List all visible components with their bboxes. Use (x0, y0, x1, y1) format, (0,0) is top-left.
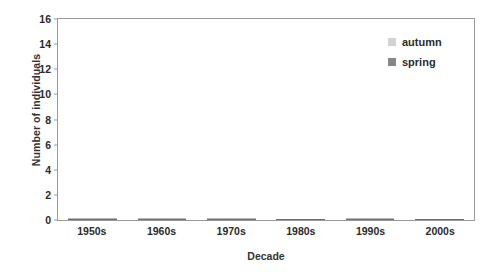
legend-swatch-icon (388, 38, 396, 46)
stacked-bar[interactable] (138, 218, 187, 220)
stacked-bar[interactable] (207, 218, 256, 220)
bar-segment-spring[interactable] (346, 219, 395, 220)
legend-item-autumn[interactable]: autumn (388, 36, 442, 48)
bar-slot (58, 19, 127, 220)
x-tick-label: 1980s (266, 225, 336, 237)
legend: autumnspring (388, 36, 442, 68)
bar-slot (266, 19, 335, 220)
bar-segment-spring[interactable] (276, 219, 325, 220)
chart-figure: Number of individuals 0246810121416 1950… (0, 0, 489, 276)
legend-swatch-icon (388, 58, 396, 66)
legend-label: autumn (402, 36, 442, 48)
stacked-bar[interactable] (276, 219, 325, 220)
x-tick-label: 1960s (127, 225, 197, 237)
legend-label: spring (402, 56, 436, 68)
bar-slot (197, 19, 266, 220)
x-tick-label: 1990s (336, 225, 406, 237)
x-axis-ticks: 1950s1960s1970s1980s1990s2000s (57, 225, 475, 237)
bar-segment-spring[interactable] (68, 219, 117, 220)
bar-segment-spring[interactable] (207, 219, 256, 220)
bar-segment-spring[interactable] (138, 219, 187, 220)
legend-item-spring[interactable]: spring (388, 56, 442, 68)
x-tick-label: 1950s (57, 225, 127, 237)
stacked-bar[interactable] (68, 218, 117, 220)
stacked-bar[interactable] (415, 219, 464, 220)
x-tick-label: 1970s (196, 225, 266, 237)
x-tick-label: 2000s (405, 225, 475, 237)
x-axis-title: Decade (57, 250, 475, 262)
bar-slot (127, 19, 196, 220)
stacked-bar[interactable] (346, 218, 395, 220)
bar-segment-spring[interactable] (415, 219, 464, 220)
